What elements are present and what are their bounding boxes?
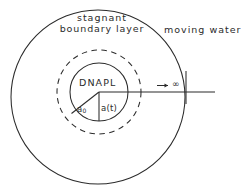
a-of-t-label: a(t) bbox=[101, 103, 117, 113]
infinity-arrow-icon bbox=[157, 84, 168, 88]
moving-water-boundary-circle bbox=[11, 10, 185, 184]
stagnant-boundary-layer-label: stagnant boundary layer bbox=[56, 12, 148, 34]
a-initial-subscript: 0 bbox=[83, 107, 87, 114]
a-initial-label: a0 bbox=[77, 104, 87, 114]
stagnant-label-line2: boundary layer bbox=[56, 23, 148, 34]
stagnant-label-line1: stagnant bbox=[56, 12, 148, 23]
moving-water-label: moving water bbox=[164, 24, 241, 35]
infinity-label: ∞ bbox=[172, 79, 180, 90]
dnapl-label: DNAPL bbox=[79, 77, 116, 88]
figure-container: stagnant boundary layer moving water DNA… bbox=[0, 0, 246, 192]
